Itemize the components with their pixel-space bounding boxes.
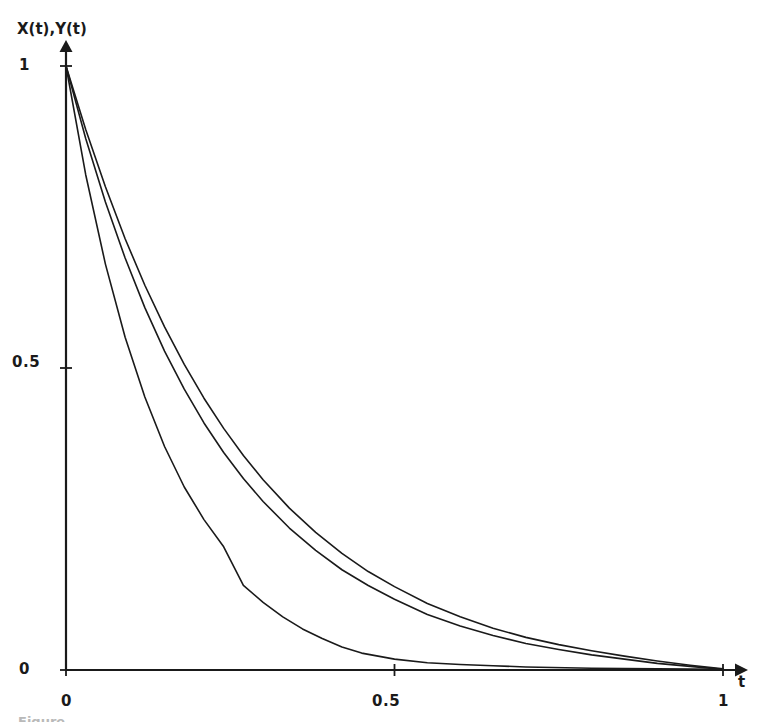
- y-tick-label-0-5: 0.5: [12, 353, 40, 371]
- y-axis-arrowhead: [60, 40, 73, 52]
- x-tick-label-0-5: 0.5: [372, 692, 400, 710]
- series-line-0: [66, 66, 723, 669]
- figure-container: X(t),Y(t) t 1 0.5 0 0 0.5 1 Figure: [0, 0, 761, 722]
- x-tick-label-0: 0: [61, 692, 72, 710]
- series-line-1: [66, 66, 723, 669]
- data-series-group: [66, 66, 723, 669]
- y-tick-label-0: 0: [19, 660, 30, 678]
- plot-canvas: [0, 0, 761, 722]
- y-tick-label-1: 1: [19, 56, 30, 74]
- figure-caption-clipped: Figure: [18, 714, 718, 722]
- x-tick-label-1: 1: [718, 692, 729, 710]
- series-line-2: [66, 66, 723, 669]
- x-axis-title: t: [738, 673, 746, 691]
- axes-group: [60, 40, 749, 677]
- y-axis-title: X(t),Y(t): [17, 20, 87, 38]
